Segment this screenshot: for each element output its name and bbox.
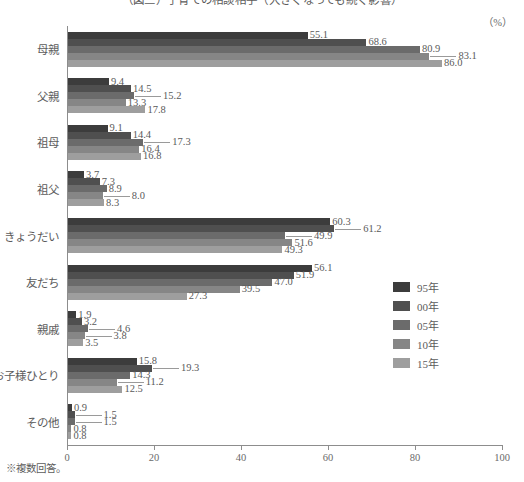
bar-row: 14.3	[68, 372, 503, 379]
bar-row: 16.4	[68, 146, 503, 153]
category-label: 母親	[37, 41, 59, 57]
bar	[68, 325, 88, 332]
value-leader-line	[89, 329, 115, 330]
x-axis-tick-label: 40	[236, 452, 247, 463]
bar	[68, 132, 131, 139]
bar-value-label: 8.3	[106, 197, 119, 208]
bar	[68, 192, 103, 199]
bar-row: 17.8	[68, 106, 503, 113]
bar-value-label: 27.3	[189, 290, 207, 301]
bar	[68, 372, 130, 379]
bar-value-label: 3.5	[85, 337, 98, 348]
bar	[68, 153, 141, 160]
x-axis-tick	[415, 445, 416, 450]
bar	[68, 178, 100, 185]
bar-row: 17.3	[68, 139, 503, 146]
bar-row: 16.8	[68, 153, 503, 160]
bar-row: 56.1	[68, 265, 503, 272]
legend-swatch	[393, 358, 410, 368]
bar-group: 9.114.417.316.416.8	[68, 125, 503, 160]
bar	[68, 411, 75, 418]
bar-value-label: 16.8	[143, 151, 161, 162]
bar	[68, 246, 282, 253]
chart-title-strip: （図三）子育ての相談相手（大きくなっても続く影響）	[0, 0, 524, 7]
legend-swatch	[393, 339, 410, 349]
legend-label: 05年	[417, 317, 439, 333]
bar	[68, 146, 139, 153]
bar	[68, 293, 187, 300]
bar	[68, 32, 308, 39]
bar	[68, 125, 108, 132]
bar	[68, 85, 131, 92]
bar-row: 0.8	[68, 425, 503, 432]
x-axis-tick-label: 60	[323, 452, 334, 463]
legend-item[interactable]: 15年	[393, 353, 503, 372]
bar-value-label: 86.0	[444, 58, 462, 69]
value-leader-line	[153, 368, 179, 369]
bar	[68, 272, 294, 279]
bar-group: 3.77.38.98.08.3	[68, 171, 503, 206]
bar-value-label: 49.3	[284, 244, 302, 255]
x-axis-tick	[154, 445, 155, 450]
bar-value-label: 0.8	[73, 430, 86, 441]
chart-footnote: ※複数回答。	[6, 460, 66, 475]
bar-value-label: 12.5	[124, 383, 142, 394]
chart-title: （図三）子育ての相談相手（大きくなっても続く影響）	[122, 0, 403, 7]
x-axis-tick-label: 100	[494, 452, 510, 463]
bar-row: 80.9	[68, 46, 503, 53]
bar-row: 83.1	[68, 53, 503, 60]
bar-row: 8.0	[68, 192, 503, 199]
legend-label: 10年	[417, 336, 439, 352]
bar-row: 14.4	[68, 132, 503, 139]
x-axis-tick	[328, 445, 329, 450]
x-axis-tick	[241, 445, 242, 450]
bar	[68, 432, 71, 439]
bar-row: 1.5	[68, 411, 503, 418]
bar	[68, 92, 134, 99]
bar	[68, 425, 71, 432]
bar-group: 9.414.515.213.317.8	[68, 78, 503, 113]
bar-value-label: 17.8	[147, 104, 165, 115]
bar-row: 0.9	[68, 404, 503, 411]
category-label: きょうだい	[4, 228, 59, 244]
bar	[68, 53, 429, 60]
value-leader-line	[76, 415, 102, 416]
bar-row: 13.3	[68, 99, 503, 106]
bar-row: 1.5	[68, 418, 503, 425]
legend-item[interactable]: 05年	[393, 315, 503, 334]
bar	[68, 332, 85, 339]
legend-swatch	[393, 301, 410, 311]
legend-item[interactable]: 00年	[393, 296, 503, 315]
bar	[68, 265, 312, 272]
x-axis-line	[67, 445, 503, 446]
bar	[68, 379, 117, 386]
category-label: お子様ひとり	[0, 367, 59, 383]
bar-row: 7.3	[68, 178, 503, 185]
category-label: 友だち	[26, 274, 59, 290]
bar	[68, 311, 76, 318]
legend-item[interactable]: 95年	[393, 277, 503, 296]
bar-row: 12.5	[68, 386, 503, 393]
bar	[68, 171, 84, 178]
category-label: 父親	[37, 88, 59, 104]
bar	[68, 232, 285, 239]
bar	[68, 99, 126, 106]
chart-legend: 95年00年05年10年15年	[393, 277, 503, 372]
bar	[68, 358, 137, 365]
bar	[68, 60, 442, 67]
bar	[68, 218, 330, 225]
bar	[68, 39, 366, 46]
x-axis-tick-label: 80	[410, 452, 421, 463]
bar	[68, 78, 109, 85]
legend-swatch	[393, 282, 410, 292]
bar-row: 60.3	[68, 218, 503, 225]
x-axis-tick	[67, 445, 68, 450]
bar	[68, 199, 104, 206]
legend-label: 95年	[417, 279, 439, 295]
bar-group: 55.168.680.983.186.0	[68, 32, 503, 67]
legend-item[interactable]: 10年	[393, 334, 503, 353]
bar	[68, 339, 83, 346]
bar	[68, 185, 107, 192]
bar	[68, 386, 122, 393]
bar	[68, 225, 334, 232]
